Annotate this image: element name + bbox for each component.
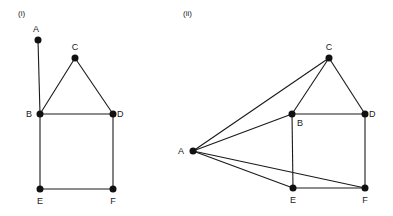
- edge-b-c: [40, 58, 75, 114]
- edge-c-d: [75, 58, 113, 114]
- node-label-b: B: [26, 109, 32, 119]
- node-a: [35, 37, 42, 44]
- figure-caption: (i): [18, 9, 25, 18]
- node-d: [110, 111, 117, 118]
- node-label-d: D: [117, 109, 124, 119]
- node-c: [326, 55, 333, 62]
- node-label-c: C: [72, 42, 79, 52]
- edge-a-b: [193, 114, 292, 151]
- edge-a-c: [193, 58, 329, 151]
- node-e: [290, 185, 297, 192]
- node-label-c: C: [326, 42, 333, 52]
- node-e: [37, 186, 44, 193]
- node-a: [190, 148, 197, 155]
- node-label-b: B: [297, 118, 303, 128]
- node-label-a: A: [178, 146, 184, 156]
- figure-ii: (ii)CBDAEF: [178, 9, 376, 205]
- node-label-e: E: [37, 196, 43, 206]
- node-label-f: F: [362, 195, 368, 205]
- node-c: [72, 55, 79, 62]
- node-d: [362, 111, 369, 118]
- edge-b-e: [292, 114, 293, 188]
- figure-i: (i)ACBDEF: [18, 9, 124, 206]
- node-f: [362, 185, 369, 192]
- node-label-e: E: [290, 195, 296, 205]
- node-b: [289, 111, 296, 118]
- node-label-f: F: [110, 196, 116, 206]
- edge-c-d: [329, 58, 365, 114]
- figure-caption: (ii): [183, 9, 192, 18]
- node-label-d: D: [369, 109, 376, 119]
- graph-diagram: (i)ACBDEF (ii)CBDAEF: [0, 0, 393, 216]
- node-label-a: A: [33, 24, 39, 34]
- node-f: [110, 186, 117, 193]
- node-b: [37, 111, 44, 118]
- edge-a-b: [38, 40, 40, 114]
- edge-c-b: [292, 58, 329, 114]
